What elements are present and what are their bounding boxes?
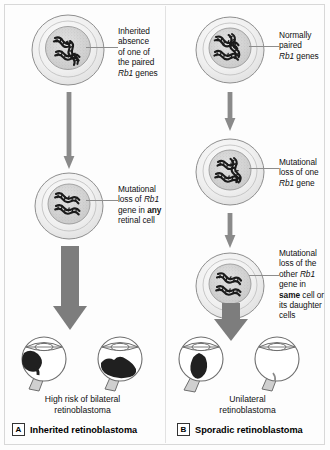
normal-cell	[190, 10, 270, 90]
callout-line: Mutational	[279, 248, 317, 258]
gene-name-rb1: Rb1	[144, 194, 159, 204]
panel-sporadic: Normally paired Rb1 genes	[165, 0, 330, 450]
callout-line: of one of	[118, 47, 150, 57]
thin-arrow-b1	[223, 92, 237, 132]
first-hit-cell	[190, 132, 270, 212]
emphasis-same: same	[279, 290, 300, 300]
callout-line: absence	[118, 36, 149, 46]
thin-arrow-b2	[223, 213, 237, 249]
caption-line-1: High risk of bilateral	[45, 394, 120, 404]
callout-retinal: Mutational loss of Rb1 gene in any retin…	[118, 184, 165, 226]
gene-name-rb1: Rb1	[279, 178, 294, 188]
callout-line: retinal cell	[118, 215, 155, 225]
callout-second-hit: Mutational loss of the other Rb1 gene in…	[279, 248, 330, 321]
panel-label-a: A Inherited retinoblastoma	[12, 423, 137, 436]
leader-line-normal	[249, 46, 279, 47]
caption-line-2: retinoblastoma	[219, 405, 275, 415]
callout-line: Mutational	[279, 157, 317, 167]
panel-inherited: Inherited absence of one of the paired R…	[0, 0, 165, 450]
callout-line: paired	[279, 40, 302, 50]
panel-badge-b: B	[177, 423, 190, 436]
caption-inherited: High risk of bilateral retinoblastoma	[0, 394, 165, 415]
eye-right-bilateral	[88, 333, 150, 393]
retinal-cell	[29, 166, 109, 246]
gene-name-rb1: Rb1	[300, 269, 315, 279]
panel-label-b: B Sporadic retinoblastoma	[177, 423, 303, 436]
callout-line: loss of the	[279, 258, 316, 268]
emphasis-any: any	[147, 205, 161, 215]
callout-line: Mutational	[118, 184, 156, 194]
callout-line: its daughter	[279, 300, 322, 310]
leader-line-germline	[86, 47, 118, 48]
panel-badge-a: A	[12, 423, 25, 436]
caption-line-1: Unilateral	[229, 394, 265, 404]
callout-line: gene in	[279, 279, 306, 289]
eye-left-bilateral	[12, 333, 74, 393]
callout-line: cells	[279, 310, 295, 320]
thin-arrow-a1	[62, 92, 76, 170]
eye-right-unilateral	[245, 333, 307, 393]
thick-arrow-a1	[52, 246, 88, 332]
panel-label-text-b: Sporadic retinoblastoma	[195, 425, 303, 435]
callout-line: the paired	[118, 57, 154, 67]
callout-line: Normally	[279, 30, 311, 40]
leader-line-first-hit	[249, 168, 279, 169]
gene-name-rb1: Rb1	[279, 51, 294, 61]
retinoblastoma-figure: Inherited absence of one of the paired R…	[0, 0, 330, 450]
caption-line-2: retinoblastoma	[54, 405, 110, 415]
callout-normal: Normally paired Rb1 genes	[279, 30, 329, 61]
callout-line: loss of one	[279, 167, 319, 177]
callout-germline: Inherited absence of one of the paired R…	[118, 26, 164, 78]
germline-cell	[26, 8, 110, 92]
eye-left-unilateral	[169, 333, 231, 393]
callout-first-hit: Mutational loss of one Rb1 gene	[279, 157, 329, 188]
panel-label-text-a: Inherited retinoblastoma	[30, 425, 137, 435]
callout-line: Inherited	[118, 26, 150, 36]
gene-name-rb1: Rb1	[118, 68, 133, 78]
leader-line-second-hit	[249, 275, 279, 276]
leader-line-retinal	[86, 200, 118, 201]
caption-sporadic: Unilateral retinoblastoma	[165, 394, 330, 415]
